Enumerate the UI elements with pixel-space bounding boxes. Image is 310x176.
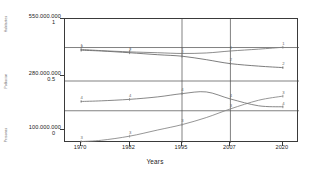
x-tick-label-2020: 2020 [275,144,288,150]
y-axis-top-scale: 1 [0,19,64,25]
x-tick-label-2007: 2007 [223,144,236,150]
y-axis-title-bottom: Personas [4,120,8,150]
y-axis-title-mid: Poblacion [4,66,8,96]
x-axis-title: Years [0,158,310,165]
chart-figure: 550.000.000 1 Habitantes 280.000.000 0.5… [0,0,310,176]
y-axis-label-mid: 280.000.000 0.5 [0,70,64,90]
y-axis-label-bottom: 100.000.000 0 [0,124,64,144]
x-tick-label-1995: 1995 [175,144,188,150]
plot-canvas [65,19,299,143]
y-axis-label-top: 550.000.000 1 [0,13,64,33]
plot-area [64,18,298,142]
y-axis-title-top: Habitantes [4,9,8,39]
x-tick-label-1982: 1982 [122,144,135,150]
y-axis-bottom-scale: 0 [0,130,64,136]
x-tick-label-1970: 1970 [74,144,87,150]
y-axis-mid-scale: 0.5 [0,76,64,82]
